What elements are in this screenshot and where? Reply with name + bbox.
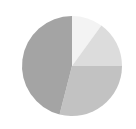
pie-slices (22, 16, 122, 116)
pie-chart (0, 0, 136, 129)
